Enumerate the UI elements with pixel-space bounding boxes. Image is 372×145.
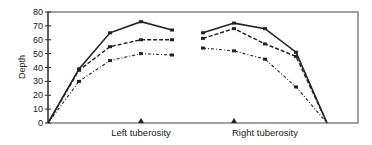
- data-point-marker: [108, 59, 112, 62]
- y-tick-label: 70: [33, 21, 43, 31]
- data-point-marker: [201, 31, 205, 34]
- y-axis-title: Depth: [17, 55, 27, 79]
- series-line-1-left: [48, 22, 172, 123]
- x-category-label-right: Right tuberosity: [232, 127, 298, 138]
- data-point-marker: [201, 47, 205, 50]
- data-point-marker: [263, 42, 267, 45]
- data-point-marker: [232, 27, 236, 30]
- triangle-marker-icon: [138, 118, 144, 123]
- y-tick-label: 80: [33, 7, 43, 17]
- data-point-marker: [294, 51, 298, 54]
- y-tick-label: 20: [33, 90, 43, 100]
- data-point-marker: [232, 22, 236, 25]
- series-line-3-left: [48, 54, 172, 123]
- data-point-marker: [170, 38, 174, 41]
- data-point-marker: [170, 29, 174, 32]
- data-point-marker: [77, 80, 81, 83]
- triangle-marker-icon: [231, 118, 237, 123]
- plot-frame: [48, 12, 358, 123]
- series-lines: [48, 20, 327, 123]
- y-tick-label: 10: [33, 104, 43, 114]
- data-point-marker: [108, 45, 112, 48]
- y-tick-label: 30: [33, 76, 43, 86]
- axis-markers: [138, 118, 237, 123]
- depth-line-chart: 01020304050607080 Depth Left tuberosity …: [0, 0, 372, 145]
- data-point-marker: [201, 37, 205, 40]
- data-point-marker: [263, 58, 267, 61]
- data-point-marker: [108, 31, 112, 34]
- data-point-marker: [232, 49, 236, 52]
- y-tick-label: 40: [33, 63, 43, 73]
- series-line-2-left: [48, 40, 172, 123]
- data-point-marker: [294, 85, 298, 88]
- y-tick-label: 0: [38, 118, 43, 128]
- data-point-marker: [139, 38, 143, 41]
- data-point-marker: [263, 27, 267, 30]
- data-point-marker: [139, 20, 143, 23]
- x-category-label-left: Left tuberosity: [111, 127, 171, 138]
- data-point-marker: [294, 55, 298, 58]
- y-tick-label: 60: [33, 35, 43, 45]
- y-tick-label: 50: [33, 49, 43, 59]
- data-point-marker: [77, 69, 81, 72]
- data-point-marker: [170, 54, 174, 57]
- data-point-marker: [139, 52, 143, 55]
- series-line-1-right: [203, 23, 327, 123]
